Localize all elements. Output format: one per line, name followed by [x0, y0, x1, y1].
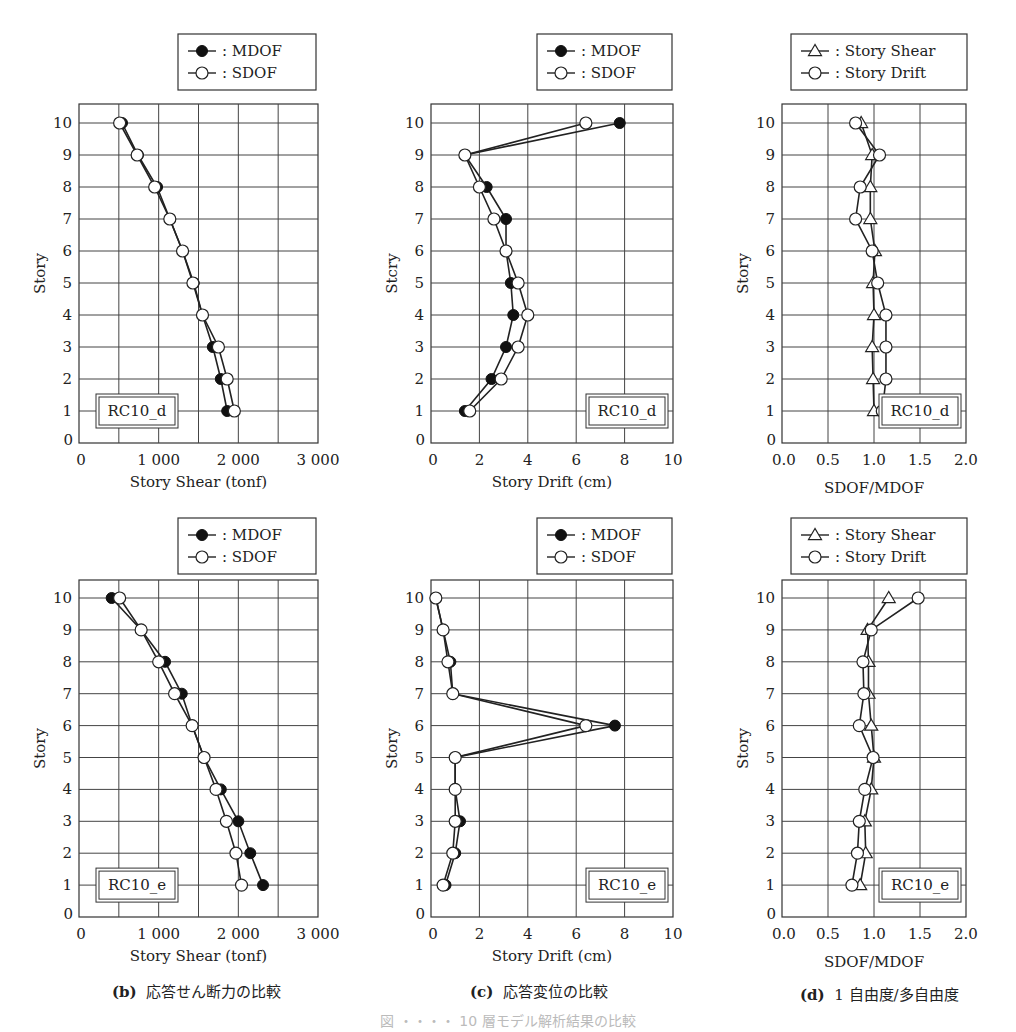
legend-label: : Story Drift: [835, 548, 926, 566]
x-tick-label: 0.5: [816, 925, 840, 943]
x-tick-label: 0: [76, 925, 86, 943]
marker-filled-circle: [258, 880, 269, 891]
y-axis-label: Story: [734, 252, 752, 294]
legend: : MDOF: SDOF: [537, 518, 672, 574]
x-tick-label: 1 000: [137, 451, 180, 469]
marker-open-circle: [430, 592, 442, 604]
x-tick-label: 0.0: [772, 451, 796, 469]
marker-filled-circle: [501, 342, 512, 353]
caption-c-text: 応答変位の比較: [503, 983, 608, 1001]
x-tick-label: 1.0: [862, 925, 886, 943]
dataset-tag-label: RC10_d: [598, 402, 657, 420]
marker-open-circle: [809, 551, 821, 563]
x-tick-label: 0: [428, 451, 438, 469]
marker-open-circle: [853, 815, 865, 827]
marker-open-circle: [449, 815, 461, 827]
y-tick-label: 10: [756, 114, 775, 132]
dataset-tag-label: RC10_e: [891, 876, 949, 894]
y-tick-label: 1: [62, 402, 72, 420]
x-tick-label: 0.5: [816, 451, 840, 469]
marker-filled-circle: [556, 46, 567, 57]
y-tick-label: 7: [62, 685, 72, 703]
x-tick-label: 6: [571, 925, 581, 943]
marker-open-circle: [169, 688, 181, 700]
y-tick-label: 2: [765, 844, 775, 862]
y-tick-label: 5: [765, 749, 775, 767]
legend-label: : SDOF: [581, 548, 636, 566]
legend-label: : Story Shear: [835, 42, 936, 60]
y-tick-label: 7: [765, 210, 775, 228]
x-tick-label: 2 000: [217, 925, 260, 943]
y-tick-label: 10: [405, 589, 424, 607]
dataset-tag: RC10_e: [96, 868, 178, 902]
y-tick-label: 0: [63, 431, 73, 449]
marker-open-circle: [177, 245, 189, 257]
chart-panel-c-e: 0123456789100246810Story Drift (cm)Story…: [383, 518, 683, 965]
marker-open-circle: [846, 879, 858, 891]
x-tick-label: 2 000: [217, 451, 260, 469]
marker-open-circle: [220, 815, 232, 827]
marker-open-circle: [865, 624, 877, 636]
x-axis-label: Story Drift (cm): [492, 473, 612, 491]
marker-open-circle: [522, 309, 534, 321]
marker-open-circle: [853, 720, 865, 732]
y-tick-label: 3: [414, 338, 424, 356]
marker-filled-circle: [508, 310, 519, 321]
y-tick-label: 6: [62, 717, 72, 735]
legend: : Story Shear: Story Drift: [791, 518, 967, 574]
y-tick-label: 10: [53, 114, 72, 132]
legend-label: : Story Shear: [835, 526, 936, 544]
y-tick-label: 8: [62, 178, 72, 196]
dataset-tag-label: RC10_e: [598, 876, 656, 894]
y-tick-label: 9: [765, 621, 775, 639]
y-tick-label: 1: [414, 876, 424, 894]
y-tick-label: 6: [765, 242, 775, 260]
marker-open-circle: [114, 117, 126, 129]
marker-open-circle: [447, 847, 459, 859]
marker-filled-circle: [197, 530, 208, 541]
y-tick-label: 6: [765, 717, 775, 735]
y-tick-label: 1: [62, 876, 72, 894]
y-tick-label: 2: [62, 844, 72, 862]
dataset-tag: RC10_d: [586, 394, 668, 428]
y-tick-label: 6: [414, 242, 424, 260]
y-tick-label: 10: [756, 589, 775, 607]
marker-open-circle: [230, 847, 242, 859]
chart-panel-b-d: 01234567891001 0002 0003 000Story Shear …: [31, 34, 339, 491]
y-tick-label: 2: [765, 370, 775, 388]
legend-label: : MDOF: [222, 42, 282, 60]
marker-open-circle: [580, 117, 592, 129]
chart-panel-d-d: 0123456789100.00.51.01.52.0SDOF/MDOFStor…: [734, 34, 978, 497]
caption-d-letter: (d): [800, 986, 825, 1004]
x-tick-label: 2.0: [954, 451, 978, 469]
marker-open-circle: [850, 213, 862, 225]
y-tick-label: 0: [63, 905, 73, 923]
marker-open-circle: [867, 752, 879, 764]
plot-frame: [431, 580, 673, 917]
marker-open-circle: [149, 181, 161, 193]
x-tick-label: 1 000: [137, 925, 180, 943]
y-tick-label: 5: [414, 274, 424, 292]
figure-caption: 図 ・・・・ 10 層モデル解析結果の比較: [0, 1010, 1016, 1030]
marker-open-circle: [866, 245, 878, 257]
marker-open-circle: [500, 245, 512, 257]
marker-open-circle: [872, 277, 884, 289]
x-tick-label: 8: [620, 451, 630, 469]
marker-open-circle: [512, 277, 524, 289]
legend: : MDOF: SDOF: [178, 518, 316, 574]
y-tick-label: 4: [765, 306, 775, 324]
marker-open-circle: [442, 656, 454, 668]
marker-open-circle: [437, 879, 449, 891]
marker-open-circle: [495, 373, 507, 385]
y-tick-label: 1: [414, 402, 424, 420]
x-tick-label: 2.0: [954, 925, 978, 943]
x-tick-label: 4: [523, 925, 533, 943]
marker-open-circle: [858, 688, 870, 700]
y-tick-label: 10: [53, 589, 72, 607]
x-tick-label: 4: [523, 451, 533, 469]
dataset-tag-label: RC10_d: [108, 402, 167, 420]
marker-open-circle: [212, 341, 224, 353]
chart-panel-b-e: 01234567891001 0002 0003 000Story Shear …: [31, 518, 339, 965]
y-tick-label: 1: [765, 876, 775, 894]
marker-filled-circle: [197, 46, 208, 57]
